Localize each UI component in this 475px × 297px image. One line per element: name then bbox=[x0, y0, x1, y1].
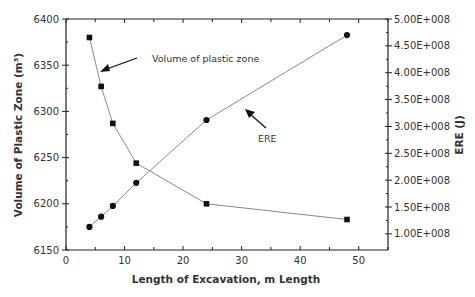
x-tick-label: 10 bbox=[118, 255, 131, 266]
x-tick-label: 20 bbox=[177, 255, 190, 266]
x-tick-label: 40 bbox=[294, 255, 307, 266]
x-tick-label: 50 bbox=[352, 255, 365, 266]
volume-of-plastic-zone-square-marker bbox=[344, 217, 350, 223]
y-tick-label: 6300 bbox=[34, 106, 59, 117]
ere-circle-marker bbox=[110, 203, 116, 209]
volume-of-plastic-zone-square-marker bbox=[98, 84, 104, 90]
arrowhead-icon bbox=[100, 64, 110, 72]
y-tick-label: 6250 bbox=[34, 152, 59, 163]
y2-tick-label: 2.50E+008 bbox=[394, 148, 450, 159]
y-tick-label: 6350 bbox=[34, 60, 59, 71]
volume-of-plastic-zone-square-marker bbox=[87, 35, 93, 41]
y2-tick-label: 5.00E+008 bbox=[394, 14, 450, 25]
y2-tick-label: 4.50E+008 bbox=[394, 40, 450, 51]
ere-circle-marker bbox=[86, 224, 92, 230]
x-tick-label: 30 bbox=[235, 255, 248, 266]
y2-tick-label: 3.50E+008 bbox=[394, 94, 450, 105]
y-axis-title: Volume of Plastic Zone (m³) bbox=[12, 53, 24, 217]
volume-annotation-label: Volume of plastic zone bbox=[152, 53, 259, 64]
x-tick-label: 0 bbox=[63, 255, 69, 266]
volume-of-plastic-zone-line bbox=[89, 37, 347, 219]
ere-circle-marker bbox=[344, 32, 350, 38]
y-tick-label: 6150 bbox=[34, 245, 59, 256]
y2-tick-label: 1.00E+008 bbox=[394, 228, 450, 239]
volume-of-plastic-zone-square-marker bbox=[133, 160, 139, 166]
y2-axis-title: ERE (J) bbox=[453, 115, 465, 155]
volume-of-plastic-zone-square-marker bbox=[204, 201, 210, 207]
y2-tick-label: 3.00E+008 bbox=[394, 121, 450, 132]
volume-of-plastic-zone-square-marker bbox=[110, 121, 116, 127]
x-axis-title: Length of Excavation, m Length bbox=[132, 273, 320, 285]
y-tick-label: 6200 bbox=[34, 198, 59, 209]
ere-annotation-label: ERE bbox=[258, 133, 277, 144]
y2-tick-label: 2.00E+008 bbox=[394, 175, 450, 186]
ere-circle-marker bbox=[203, 117, 209, 123]
dual-axis-line-chart: 010203040506150620062506300635064001.00E… bbox=[0, 0, 475, 297]
ere-circle-marker bbox=[98, 214, 104, 220]
ere-annotation-arrow bbox=[250, 114, 266, 128]
y-tick-label: 6400 bbox=[34, 14, 59, 25]
y2-tick-label: 1.50E+008 bbox=[394, 202, 450, 213]
annotations: Volume of plastic zone ERE bbox=[100, 53, 277, 144]
axes: 010203040506150620062506300635064001.00E… bbox=[34, 14, 451, 267]
ere-circle-marker bbox=[133, 180, 139, 186]
y2-tick-label: 4.00E+008 bbox=[394, 67, 450, 78]
